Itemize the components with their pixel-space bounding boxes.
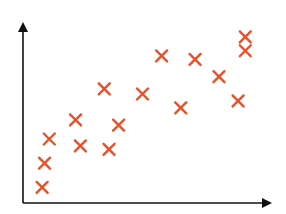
x-marker-icon — [70, 114, 81, 125]
x-marker-icon — [213, 71, 224, 82]
scatter-chart — [0, 0, 286, 214]
x-marker-icon — [190, 54, 201, 65]
x-marker-icon — [104, 144, 115, 155]
x-marker-icon — [113, 120, 124, 131]
x-marker-icon — [39, 158, 50, 169]
x-marker-icon — [44, 133, 55, 144]
x-marker-icon — [240, 31, 251, 42]
x-marker-icon — [137, 89, 148, 100]
x-marker-icon — [233, 95, 244, 106]
x-marker-icon — [240, 45, 251, 56]
x-marker-icon — [99, 83, 110, 94]
x-marker-icon — [156, 50, 167, 61]
data-points — [37, 31, 251, 193]
x-marker-icon — [75, 140, 86, 151]
x-marker-icon — [175, 102, 186, 113]
x-marker-icon — [37, 182, 48, 193]
